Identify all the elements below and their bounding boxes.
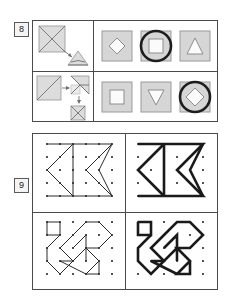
option-triangle-down [141,82,171,112]
arrow-down-icon [77,96,81,104]
question-9-panel [32,133,218,290]
question-8-row-1-prompt [33,21,93,71]
worksheet-page: 8 [0,0,228,305]
question-number-9: 9 [14,178,29,193]
arrow-right-icon [62,86,70,90]
quadrant-bottom-right [126,213,218,290]
option-square [102,82,132,112]
option-diamond [180,82,210,112]
square-with-diagonal-icon [37,76,61,100]
question-number-8: 8 [14,22,29,37]
option-triangle [180,31,210,61]
polygon-chain-figure [138,222,203,274]
arrow-icon [63,50,72,57]
zigzag-arrow-figure [138,144,203,196]
quadrant-top-right [126,134,218,212]
zigzag-arrow-figure [47,144,112,196]
question-8-row-2-prompt [33,72,93,122]
question-8-panel [32,20,218,122]
polygon-chain-figure [47,222,112,274]
folded-flat-triangle-icon [68,51,88,65]
quadrant-top-left [33,134,125,212]
dot-grid [46,143,113,197]
question-8-row-1-options [94,21,218,71]
folded-triangle-icon [71,76,89,94]
option-square [141,31,171,61]
option-diamond [102,31,132,61]
dot-grid [137,143,204,197]
quadrant-bottom-left [33,213,125,290]
small-folded-square-icon [71,106,85,120]
square-with-x-diagonals-icon [39,26,65,52]
question-8-row-2-options [94,72,218,122]
